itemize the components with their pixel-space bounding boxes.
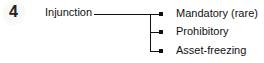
bullet-square-icon [159,49,163,53]
connector-trunk [150,14,151,52]
item-number: 4 [9,3,18,21]
bullet-square-icon [159,30,163,34]
bullet-square-icon [159,12,163,16]
root-node-label: Injunction [45,6,92,18]
branch-label-asset-freezing: Asset-freezing [176,44,246,56]
branch-label-mandatory: Mandatory (rare) [176,7,258,19]
branch-label-prohibitory: Prohibitory [176,25,229,37]
connector-root [94,14,151,15]
